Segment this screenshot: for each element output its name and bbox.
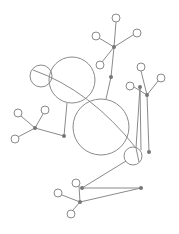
edge-line bbox=[102, 47, 114, 62]
leaf-circle-node bbox=[157, 74, 165, 82]
edge-line bbox=[111, 47, 114, 77]
junction-dot bbox=[145, 93, 149, 97]
leaf-circle-node bbox=[137, 63, 145, 71]
leaf-circle-node bbox=[11, 135, 19, 143]
junction-dot bbox=[139, 186, 143, 190]
junction-dot bbox=[33, 126, 37, 130]
junction-dot bbox=[80, 186, 84, 190]
junction-dot bbox=[62, 134, 66, 138]
leaf-circle-node bbox=[67, 210, 75, 218]
leaf-circle-node bbox=[96, 61, 104, 69]
edge-line bbox=[99, 38, 114, 47]
large-circle-node bbox=[124, 147, 142, 165]
junction-dot bbox=[147, 150, 151, 154]
network-diagram bbox=[0, 0, 179, 234]
junction-dot bbox=[138, 85, 142, 89]
edge-line bbox=[35, 114, 43, 128]
leaf-circle-node bbox=[133, 29, 141, 37]
leaf-circle-node bbox=[126, 82, 134, 90]
edge-line bbox=[140, 87, 141, 150]
leaf-circle-node bbox=[72, 179, 80, 187]
edge-line bbox=[114, 35, 133, 47]
junction-dot bbox=[112, 45, 116, 49]
edge-line bbox=[136, 87, 140, 148]
edge-line bbox=[62, 195, 80, 202]
leaf-circle-node bbox=[54, 189, 62, 197]
edge-line bbox=[147, 95, 149, 152]
leaf-circle-node bbox=[41, 106, 49, 114]
edge-line bbox=[18, 128, 35, 137]
junction-dot bbox=[109, 75, 113, 79]
edge-line bbox=[106, 77, 111, 99]
edge-line bbox=[35, 128, 64, 136]
leaf-circle-node bbox=[112, 14, 120, 22]
edge-line bbox=[114, 22, 116, 47]
edge-line bbox=[79, 186, 80, 202]
edge-line bbox=[21, 116, 35, 128]
edge-line bbox=[82, 161, 126, 188]
edges-group bbox=[18, 22, 158, 210]
large-circle-node bbox=[73, 99, 129, 155]
graph-svg bbox=[0, 0, 179, 234]
edge-line bbox=[80, 188, 141, 202]
leaf-circle-node bbox=[14, 109, 22, 117]
edge-line bbox=[64, 103, 67, 136]
junction-dot bbox=[78, 200, 82, 204]
edge-line bbox=[147, 81, 158, 95]
leaf-circle-node bbox=[92, 32, 100, 40]
